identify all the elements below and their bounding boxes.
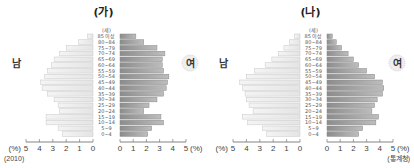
x-axis-unit-left: (%): [9, 144, 22, 153]
male-bar: [295, 34, 300, 39]
x-tick-label: 2: [144, 144, 149, 153]
age-tick-label: 50~54: [98, 73, 115, 79]
age-tick-label: 10~14: [98, 119, 115, 125]
age-tick-label: 5~9: [308, 125, 319, 131]
age-tick-label: 75~79: [98, 45, 115, 51]
x-tick-label: 4: [171, 144, 176, 153]
age-tick-label: 40~44: [305, 85, 322, 91]
male-bar: [47, 69, 93, 74]
male-bar: [267, 132, 301, 137]
age-tick-label: 45~49: [305, 79, 322, 85]
male-bar: [45, 74, 93, 79]
male-bar: [42, 86, 93, 91]
x-tick-label: 3: [258, 144, 263, 153]
age-tick-label: 5~9: [101, 125, 112, 131]
pyramid-panel-na: (나) 0~45~910~1415~1920~2425~2930~3435~39…: [207, 0, 414, 168]
x-tick-label: 1: [131, 144, 136, 153]
x-tick-label: 1: [284, 144, 289, 153]
female-bar: [120, 120, 164, 125]
male-bar: [248, 120, 300, 125]
male-bar: [245, 92, 300, 97]
x-tick-label: 3: [157, 144, 162, 153]
female-label: 여: [186, 57, 195, 69]
male-bar: [272, 57, 300, 62]
female-bar: [120, 46, 157, 51]
age-tick-label: 55~59: [305, 68, 322, 74]
female-bar: [120, 57, 162, 62]
age-tick-label: 85 이상: [305, 33, 323, 40]
age-tick-label: 80~84: [305, 39, 322, 45]
age-tick-label: 70~74: [98, 50, 115, 56]
male-bar: [60, 109, 94, 114]
female-bar: [327, 51, 348, 56]
female-bar: [327, 97, 377, 102]
female-bar: [327, 40, 336, 45]
male-bar: [265, 63, 300, 68]
female-bar: [327, 126, 363, 131]
pyramid-chart-ga: 0~45~910~1415~1920~2425~2930~3435~3940~4…: [0, 0, 207, 168]
age-tick-label: 40~44: [98, 85, 115, 91]
age-unit-label: (세): [102, 27, 111, 34]
female-bar: [120, 74, 169, 79]
female-bar: [120, 109, 144, 114]
pyramid-panel-ga: (가) 0~45~910~1415~1920~2425~2930~3435~39…: [0, 0, 207, 168]
age-tick-label: 65~69: [98, 56, 115, 62]
female-bar: [120, 34, 136, 39]
age-tick-label: 0~4: [101, 131, 112, 137]
age-tick-label: 15~19: [98, 114, 115, 120]
age-tick-label: 30~34: [305, 96, 322, 102]
female-bar: [120, 103, 149, 108]
male-bar: [58, 103, 93, 108]
male-bar: [41, 80, 93, 85]
age-tick-label: 0~4: [308, 131, 319, 137]
age-tick-label: 35~39: [98, 91, 115, 97]
male-bar: [242, 86, 300, 91]
female-bar: [327, 63, 359, 68]
x-tick-label: 2: [271, 144, 276, 153]
x-tick-label: 5: [231, 144, 236, 153]
age-tick-label: 10~14: [305, 119, 322, 125]
male-bar: [66, 46, 93, 51]
male-bar: [279, 51, 300, 56]
age-tick-label: 35~39: [305, 91, 322, 97]
female-bar: [120, 80, 168, 85]
female-bar: [120, 126, 152, 131]
female-bar: [120, 115, 161, 120]
female-bar: [120, 86, 166, 91]
female-bar: [327, 86, 384, 91]
age-tick-label: 50~54: [305, 73, 322, 79]
male-bar: [78, 40, 93, 45]
female-bar: [327, 92, 382, 97]
age-tick-label: 80~84: [98, 39, 115, 45]
x-tick-label: 0: [298, 144, 303, 153]
male-bar: [240, 80, 300, 85]
female-bar: [120, 132, 148, 137]
male-bar: [289, 40, 300, 45]
male-bar: [60, 51, 94, 56]
age-unit-label: (세): [309, 27, 318, 34]
x-tick-label: 3: [51, 144, 56, 153]
age-tick-label: 25~29: [305, 102, 322, 108]
age-tick-label: 60~64: [305, 62, 322, 68]
x-tick-label: 2: [351, 144, 356, 153]
age-tick-label: 25~29: [98, 102, 115, 108]
source-note: (2010): [4, 155, 24, 163]
x-axis-unit-left: (%): [216, 144, 229, 153]
female-bar: [120, 40, 144, 45]
male-bar: [46, 115, 93, 120]
male-bar: [242, 115, 300, 120]
male-label: 남: [219, 57, 229, 69]
x-tick-label: 4: [244, 144, 249, 153]
age-tick-label: 85 이상: [98, 33, 116, 40]
x-tick-label: 2: [64, 144, 69, 153]
male-bar: [88, 34, 93, 39]
female-bar: [120, 51, 165, 56]
x-tick-label: 3: [364, 144, 369, 153]
male-bar: [246, 97, 300, 102]
female-bar: [120, 92, 164, 97]
age-tick-label: 45~49: [98, 79, 115, 85]
source-note: (통계청): [387, 154, 410, 163]
x-tick-label: 5: [24, 144, 29, 153]
pyramid-chart-na: 0~45~910~1415~1920~2425~2930~3435~3940~4…: [207, 0, 414, 168]
x-tick-label: 5: [391, 144, 396, 153]
